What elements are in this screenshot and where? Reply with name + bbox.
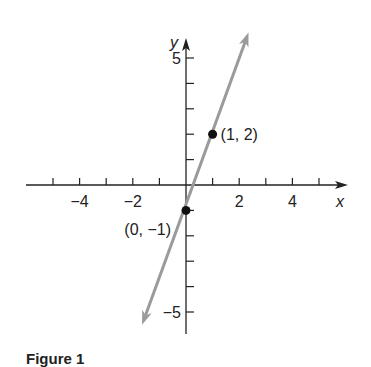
data-point [182,206,191,215]
x-tick-label: 4 [288,193,297,210]
x-tick-label: 2 [235,193,244,210]
x-tick-label: −2 [124,193,142,210]
x-axis-label: x [335,193,345,210]
y-axis-label: y [169,34,179,51]
y-tick-label: 5 [172,50,181,67]
x-tick-label: −4 [70,193,88,210]
line-series [142,33,248,325]
point-label: (0, −1) [124,221,171,238]
y-axis: 5−5y [163,34,194,334]
labeled-points: (1, 2)(0, −1) [124,126,258,238]
point-label: (1, 2) [221,126,258,143]
y-tick-label: −5 [163,304,181,321]
figure-caption: Figure 1 [26,350,84,367]
data-point [208,130,217,139]
graph-line [146,42,246,315]
